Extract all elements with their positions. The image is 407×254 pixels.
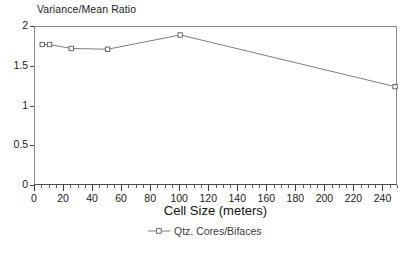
data-point-marker (393, 84, 397, 88)
x-tick-mark-major (208, 185, 209, 191)
series-line (42, 35, 395, 87)
x-tick-mark-minor (128, 185, 129, 188)
x-tick-mark-minor (49, 185, 50, 188)
x-tick-mark-minor (194, 185, 195, 188)
y-tick-label: 1 (22, 99, 28, 111)
data-point-marker (40, 42, 44, 46)
x-tick-mark-minor (201, 185, 202, 188)
x-tick-mark-minor (310, 185, 311, 188)
x-tick-mark-minor (288, 185, 289, 188)
x-tick-mark-major (34, 185, 35, 191)
chart-screenshot: Variance/Mean Ratio 00.511.52 0204060801… (0, 0, 407, 254)
plot-area (34, 26, 397, 185)
x-tick-mark-minor (361, 185, 362, 188)
x-tick-mark-minor (259, 185, 260, 188)
x-tick-mark-minor (252, 185, 253, 188)
x-tick-mark-minor (78, 185, 79, 188)
x-tick-mark-minor (230, 185, 231, 188)
x-tick-mark-minor (41, 185, 42, 188)
x-tick-mark-minor (165, 185, 166, 188)
y-tick-label: 0 (22, 178, 28, 190)
x-tick-mark-minor (216, 185, 217, 188)
x-tick-mark-major (295, 185, 296, 191)
x-tick-mark-minor (107, 185, 108, 188)
data-point-marker (105, 47, 109, 51)
y-tick-label: 1.5 (13, 59, 28, 71)
y-tick-label: 0.5 (13, 138, 28, 150)
x-tick-mark-minor (397, 185, 398, 188)
x-tick-mark-minor (99, 185, 100, 188)
x-tick-mark-minor (56, 185, 57, 188)
x-tick-mark-minor (281, 185, 282, 188)
x-tick-mark-major (382, 185, 383, 191)
x-tick-mark-minor (317, 185, 318, 188)
x-tick-mark-minor (339, 185, 340, 188)
x-tick-mark-minor (70, 185, 71, 188)
x-tick-mark-minor (375, 185, 376, 188)
x-tick-mark-minor (136, 185, 137, 188)
x-tick-mark-minor (303, 185, 304, 188)
x-tick-mark-minor (368, 185, 369, 188)
legend: Qtz. Cores/Bifaces (148, 225, 262, 237)
chart-title: Variance/Mean Ratio (37, 3, 136, 15)
legend-square-marker (157, 229, 162, 234)
x-tick-mark-minor (143, 185, 144, 188)
y-axis: 00.511.52 (0, 26, 34, 185)
x-tick-mark-minor (157, 185, 158, 188)
x-tick-mark-minor (172, 185, 173, 188)
series-qtz-cores-bifaces (35, 27, 398, 186)
x-tick-mark-minor (390, 185, 391, 188)
x-tick-mark-minor (346, 185, 347, 188)
x-tick-mark-major (92, 185, 93, 191)
x-tick-mark-major (237, 185, 238, 191)
x-tick-mark-minor (114, 185, 115, 188)
x-tick-mark-major (150, 185, 151, 191)
data-point-marker (178, 33, 182, 37)
x-tick-mark-minor (274, 185, 275, 188)
y-tick-label: 2 (22, 19, 28, 31)
x-tick-mark-minor (186, 185, 187, 188)
x-tick-mark-major (121, 185, 122, 191)
legend-label: Qtz. Cores/Bifaces (174, 225, 262, 237)
legend-marker-icon (148, 226, 170, 236)
x-tick-mark-minor (85, 185, 86, 188)
x-tick-mark-major (179, 185, 180, 191)
x-tick-mark-minor (332, 185, 333, 188)
x-tick-mark-major (63, 185, 64, 191)
data-point-marker (69, 46, 73, 50)
x-axis-title: Cell Size (meters) (34, 203, 397, 218)
x-tick-mark-major (266, 185, 267, 191)
data-point-marker (47, 42, 51, 46)
x-tick-mark-minor (223, 185, 224, 188)
x-tick-mark-major (353, 185, 354, 191)
x-tick-mark-major (324, 185, 325, 191)
x-tick-mark-minor (245, 185, 246, 188)
